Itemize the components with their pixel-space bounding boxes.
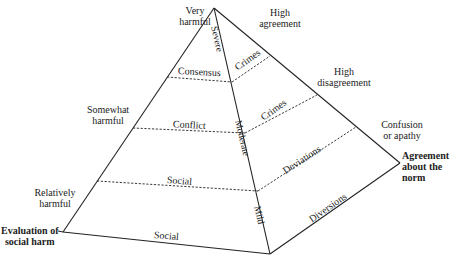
label-or-apathy: or apathy <box>372 130 432 141</box>
axis-title-agreement-line2: about the <box>402 161 449 172</box>
band-social-lower: Social <box>154 229 180 242</box>
pyramid-edges <box>63 8 400 254</box>
label-harmful-3: harmful <box>30 198 80 209</box>
band-social-upper: Social <box>167 174 193 187</box>
label-high-agreement: High agreement <box>250 7 310 29</box>
label-confusion-apathy: Confusion or apathy <box>372 119 432 141</box>
label-agreement: agreement <box>250 18 310 29</box>
axis-title-agreement: Agreement about the norm <box>402 150 449 183</box>
label-harmful-2: harmful <box>78 115 138 126</box>
label-high-2: High <box>314 66 374 77</box>
axis-title-evaluation: Evaluation of social harm <box>1 225 59 247</box>
band-conflict: Conflict <box>173 118 206 131</box>
divider-left-1 <box>167 77 232 82</box>
band-consensus: Consensus <box>178 65 221 78</box>
axis-title-evaluation-line2: social harm <box>1 236 59 247</box>
axis-title-agreement-line1: Agreement <box>402 150 449 161</box>
label-very: Very <box>165 5 225 16</box>
label-somewhat: Somewhat <box>78 104 138 115</box>
label-somewhat-harmful: Somewhat harmful <box>78 104 138 126</box>
axis-title-evaluation-line1: Evaluation of <box>1 225 59 236</box>
label-disagreement: disagreement <box>314 77 374 88</box>
label-high-1: High <box>250 7 310 18</box>
label-confusion: Confusion <box>372 119 432 130</box>
label-relatively: Relatively <box>30 187 80 198</box>
label-relatively-harmful: Relatively harmful <box>30 187 80 209</box>
label-high-disagreement: High disagreement <box>314 66 374 88</box>
label-very-harmful: Very harmful <box>165 5 225 27</box>
axis-title-agreement-line3: norm <box>402 172 449 183</box>
